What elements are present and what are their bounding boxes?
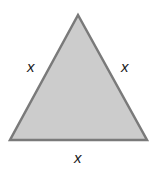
- base-label: x: [73, 149, 82, 166]
- triangle-shape: [10, 15, 147, 140]
- left-side-label: x: [26, 58, 35, 75]
- triangle-diagram: x x x: [0, 0, 155, 171]
- right-side-label: x: [120, 58, 129, 75]
